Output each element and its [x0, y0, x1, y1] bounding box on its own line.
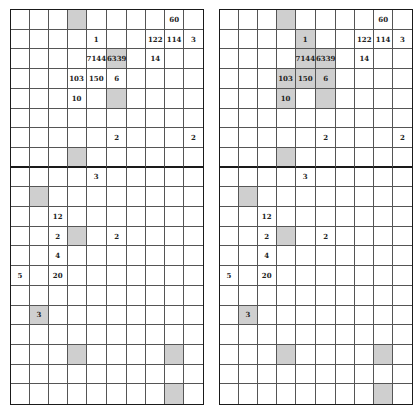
grid-cell — [393, 266, 412, 286]
grid-cell — [393, 246, 412, 266]
grid-cell — [239, 109, 258, 129]
grid-cell — [258, 345, 277, 365]
grid-cell — [220, 384, 239, 404]
grid-cell — [296, 187, 316, 207]
grid-cell — [374, 227, 393, 247]
grid-cell — [49, 128, 68, 148]
grid-cell — [107, 325, 127, 345]
grid-cell — [355, 128, 374, 148]
grid-cell — [30, 109, 49, 129]
grid-cell — [146, 306, 165, 326]
grid-cell — [336, 69, 355, 89]
grid-cell — [393, 148, 412, 168]
grid-cell — [393, 49, 412, 69]
grid-cell — [220, 69, 239, 89]
grid-cell — [336, 128, 355, 148]
grid-cell — [87, 10, 107, 30]
grid-cell: 6339 — [316, 49, 336, 69]
grid-cell — [127, 30, 146, 50]
grid-cell — [11, 365, 30, 385]
grid-cell — [336, 89, 355, 109]
grid-cell: 2 — [316, 227, 336, 247]
grid-cell — [316, 109, 336, 129]
grid-cell — [107, 246, 127, 266]
grid-cell — [127, 89, 146, 109]
grid-cell: 14 — [355, 49, 374, 69]
grid-cell — [374, 128, 393, 148]
grid-cell — [184, 49, 203, 69]
grid-cell — [258, 384, 277, 404]
grid-cell — [30, 30, 49, 50]
grid-cell — [258, 286, 277, 306]
grid-cell — [220, 286, 239, 306]
grid-cell — [11, 49, 30, 69]
grid-cell: 2 — [107, 227, 127, 247]
grid-cell — [296, 207, 316, 227]
grid-cell — [355, 207, 374, 227]
grid-cell — [30, 128, 49, 148]
grid-cell — [107, 306, 127, 326]
grid-cell — [11, 227, 30, 247]
grid-cell — [355, 89, 374, 109]
grid-cell — [165, 384, 184, 404]
grid-cell — [239, 227, 258, 247]
grid-cell — [127, 246, 146, 266]
grid-cell — [355, 109, 374, 129]
grid-cell — [393, 89, 412, 109]
grid-cell — [68, 286, 87, 306]
grid-cell — [146, 187, 165, 207]
grid-cell — [68, 325, 87, 345]
grid-cell — [68, 10, 87, 30]
grid-cell — [49, 384, 68, 404]
grid-cell — [107, 168, 127, 188]
grid-cell — [239, 246, 258, 266]
grid-cell — [258, 109, 277, 129]
grid-cell — [68, 30, 87, 50]
grid-cell — [165, 286, 184, 306]
grid-cell — [374, 286, 393, 306]
grid-cell — [127, 128, 146, 148]
grid-cell: 150 — [87, 69, 107, 89]
grid-cell — [11, 345, 30, 365]
grid-cell — [184, 325, 203, 345]
grid-cell — [336, 246, 355, 266]
grid-cell — [107, 345, 127, 365]
grid-cell: 122 — [355, 30, 374, 50]
grid-cell — [165, 168, 184, 188]
grid-cell — [68, 227, 87, 247]
grid-cell — [374, 325, 393, 345]
grid-cell: 3 — [296, 168, 316, 188]
grid-cell — [184, 89, 203, 109]
grid-cell — [355, 345, 374, 365]
grid-cell: 103 — [277, 69, 296, 89]
grid-cell — [127, 227, 146, 247]
grid-cell — [258, 168, 277, 188]
grid-cell — [165, 89, 184, 109]
grid-cell — [30, 187, 49, 207]
grid-cell — [68, 306, 87, 326]
grid-cell — [165, 306, 184, 326]
grid-cell — [68, 246, 87, 266]
grid-cell — [355, 246, 374, 266]
grid-cell — [296, 384, 316, 404]
grid-cell — [374, 49, 393, 69]
grid-cell — [393, 227, 412, 247]
grid-cell — [296, 325, 316, 345]
grid-cell — [49, 345, 68, 365]
grid-cell — [68, 207, 87, 227]
grid-cell — [30, 384, 49, 404]
grid-cell: 5 — [220, 266, 239, 286]
grid-cell — [30, 148, 49, 168]
grid-cell — [11, 187, 30, 207]
grid-cell — [165, 246, 184, 266]
grid-cell — [11, 109, 30, 129]
grid-cell — [127, 384, 146, 404]
grid-cell — [336, 286, 355, 306]
grid-cell — [220, 148, 239, 168]
grid-cell — [336, 187, 355, 207]
grid-cell — [277, 325, 296, 345]
right-grid: 6011221143714463391410315061022312224520… — [219, 9, 413, 405]
grid-cell — [277, 168, 296, 188]
grid-cell — [127, 109, 146, 129]
grid-cell — [220, 30, 239, 50]
